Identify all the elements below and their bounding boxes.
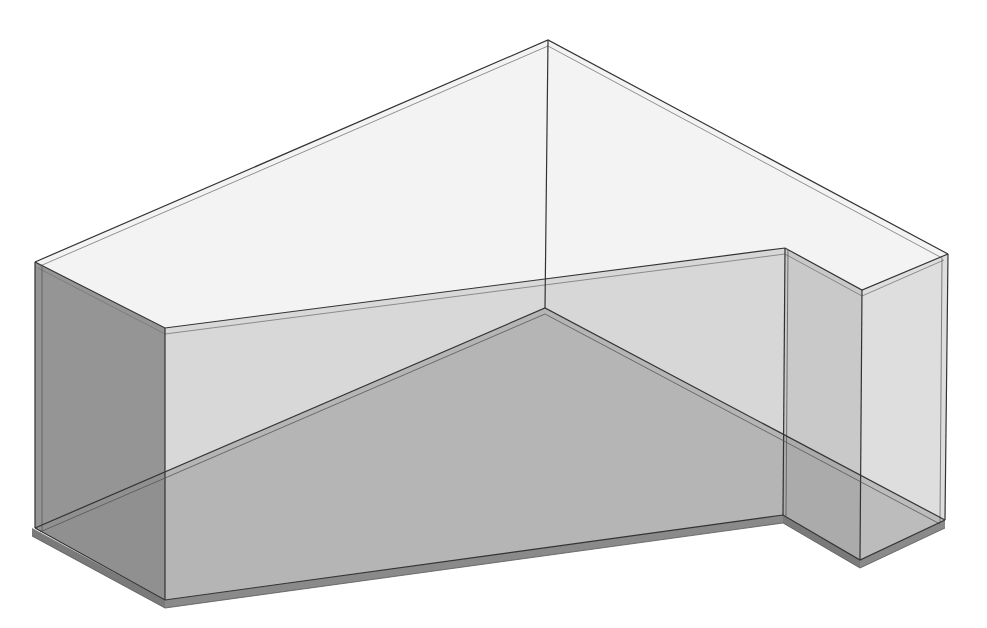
room-diagram (0, 0, 987, 628)
notch-side-wall (783, 248, 862, 560)
